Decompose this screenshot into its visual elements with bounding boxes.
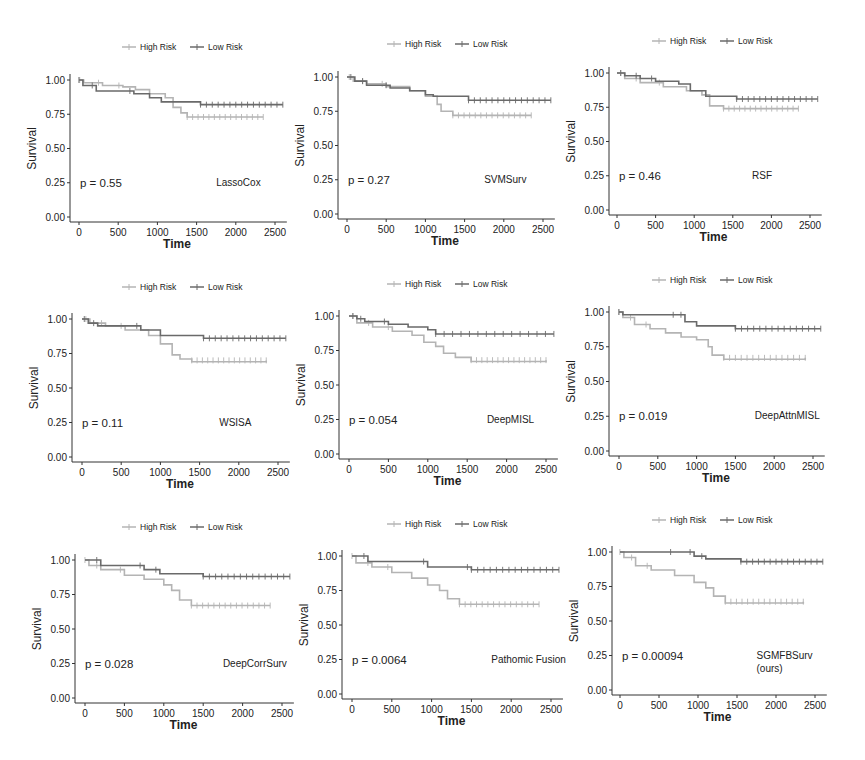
- y-tick-label: 0.50: [51, 624, 71, 635]
- low-risk-curve: [85, 557, 290, 580]
- legend: High RiskLow Risk: [122, 282, 243, 292]
- y-axis-title: Survival: [564, 360, 578, 403]
- legend-low-risk-label: Low Risk: [473, 39, 508, 49]
- x-tick-label: 2500: [540, 704, 563, 715]
- y-axis-title: Survival: [27, 367, 41, 410]
- axes: 0.000.250.500.751.0005001000150020002500…: [294, 310, 558, 488]
- y-tick-label: 0.75: [585, 341, 605, 352]
- x-tick-label: 2000: [495, 464, 518, 475]
- y-tick-label: 0.25: [318, 654, 338, 665]
- km-panel: High RiskLow Risk0.000.250.500.751.00050…: [30, 522, 294, 732]
- legend-high-risk-label: High Risk: [140, 42, 177, 52]
- y-axis-title: Survival: [297, 604, 311, 647]
- legend-low-risk-label: Low Risk: [738, 275, 773, 285]
- legend: High RiskLow Risk: [652, 515, 773, 525]
- x-tick-label: 0: [614, 220, 620, 231]
- legend-low-risk-label: Low Risk: [208, 42, 243, 52]
- axes: 0.000.250.500.751.0005001000150020002500…: [297, 550, 563, 728]
- y-axis-title: Survival: [567, 600, 581, 643]
- y-tick-label: 0.50: [588, 616, 608, 627]
- y-tick-label: 1.00: [315, 311, 335, 322]
- y-tick-label: 0.75: [585, 102, 605, 113]
- x-tick-label: 2500: [799, 220, 822, 231]
- model-name-label: DeepMISL: [487, 414, 535, 425]
- legend-high-risk-label: High Risk: [670, 275, 707, 285]
- low-risk-curve: [619, 309, 821, 332]
- x-tick-label: 2500: [802, 461, 825, 472]
- x-tick-label: 2000: [231, 708, 254, 719]
- km-panel: High RiskLow Risk0.000.250.500.751.00050…: [564, 36, 822, 244]
- high-risk-curve: [79, 77, 263, 120]
- axes: 0.000.250.500.751.0005001000150020002500…: [30, 554, 294, 732]
- high-risk-curve: [617, 70, 798, 112]
- x-tick-label: 0: [617, 700, 623, 711]
- x-tick-label: 2500: [535, 464, 558, 475]
- y-tick-label: 0.00: [318, 689, 338, 700]
- x-tick-label: 2000: [500, 704, 523, 715]
- y-tick-label: 0.75: [315, 345, 335, 356]
- x-tick-label: 500: [380, 464, 397, 475]
- x-tick-label: 2500: [264, 227, 287, 238]
- low-risk-curve: [347, 74, 551, 103]
- y-tick-label: 1.00: [585, 307, 605, 318]
- y-tick-label: 1.00: [48, 314, 68, 325]
- legend-high-risk-label: High Risk: [405, 39, 442, 49]
- legend-low-risk-label: Low Risk: [208, 282, 243, 292]
- y-tick-label: 1.00: [585, 68, 605, 79]
- y-axis-title: Survival: [30, 608, 44, 651]
- axes: 0.000.250.500.751.0005001000150020002500…: [25, 74, 287, 251]
- x-tick-label: 2000: [765, 700, 788, 711]
- x-tick-label: 0: [344, 224, 350, 235]
- x-axis-title: Time: [438, 714, 466, 728]
- legend-high-risk-label: High Risk: [670, 515, 707, 525]
- x-axis-title: Time: [700, 230, 728, 244]
- x-axis-title: Time: [166, 477, 194, 491]
- model-name-label: WSISA: [219, 417, 252, 428]
- x-tick-label: 0: [616, 461, 622, 472]
- p-value-label: p = 0.019: [619, 410, 667, 422]
- x-tick-label: 2000: [763, 461, 786, 472]
- legend-low-risk-label: Low Risk: [738, 515, 773, 525]
- high-risk-curve: [619, 309, 805, 361]
- legend-high-risk-label: High Risk: [140, 522, 177, 532]
- x-tick-label: 500: [113, 467, 130, 478]
- model-name-label: Pathomic Fusion: [491, 654, 565, 665]
- y-tick-label: 1.00: [46, 75, 66, 86]
- y-tick-label: 0.50: [46, 143, 66, 154]
- y-axis-title: Survival: [294, 364, 308, 407]
- y-tick-label: 1.00: [588, 547, 608, 558]
- legend: High RiskLow Risk: [652, 275, 773, 285]
- p-value-label: p = 0.0064: [352, 654, 407, 666]
- y-tick-label: 0.00: [588, 685, 608, 696]
- y-tick-label: 0.50: [585, 376, 605, 387]
- y-tick-label: 0.75: [318, 585, 338, 596]
- y-tick-label: 0.25: [585, 170, 605, 181]
- low-risk-curve: [617, 70, 818, 102]
- x-tick-label: 500: [651, 700, 668, 711]
- y-tick-label: 0.00: [51, 693, 71, 704]
- y-tick-label: 0.00: [585, 446, 605, 457]
- legend-low-risk-label: Low Risk: [473, 519, 508, 529]
- y-tick-label: 0.50: [314, 140, 334, 151]
- y-tick-label: 1.00: [314, 72, 334, 83]
- km-panel: High RiskLow Risk0.000.250.500.751.00050…: [27, 282, 290, 491]
- x-axis-title: Time: [704, 710, 732, 724]
- legend: High RiskLow Risk: [387, 39, 508, 49]
- y-tick-label: 0.25: [46, 177, 66, 188]
- legend: High RiskLow Risk: [387, 519, 508, 529]
- y-axis-title: Survival: [25, 127, 39, 170]
- y-tick-label: 0.25: [48, 417, 68, 428]
- y-tick-label: 0.00: [315, 449, 335, 460]
- low-risk-curve: [349, 313, 554, 337]
- legend-low-risk-label: Low Risk: [473, 279, 508, 289]
- model-name-label: DeepAttnMISL: [755, 410, 820, 421]
- y-axis-title: Survival: [564, 120, 578, 163]
- y-tick-label: 1.00: [318, 551, 338, 562]
- high-risk-curve: [620, 549, 803, 605]
- model-name-label: SVMSurv: [484, 174, 526, 185]
- y-tick-label: 0.75: [314, 106, 334, 117]
- y-tick-label: 0.25: [585, 411, 605, 422]
- legend-high-risk-label: High Risk: [140, 282, 177, 292]
- p-value-label: p = 0.11: [82, 417, 123, 429]
- model-name-label: LassoCox: [216, 177, 260, 188]
